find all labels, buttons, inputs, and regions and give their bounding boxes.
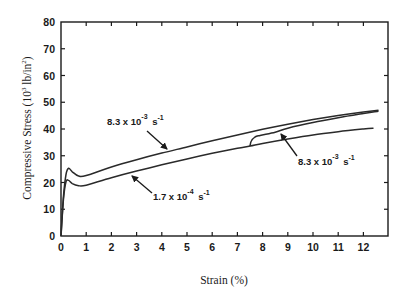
- annotation-jump-rate: 8.3 x 10-3 s-1: [298, 153, 355, 167]
- y-tick-label: 70: [43, 43, 55, 55]
- series-line-0: [61, 110, 379, 236]
- x-tick-label: 3: [134, 241, 140, 253]
- x-tick-label: 7: [234, 241, 240, 253]
- y-axis-ticks: [61, 49, 388, 210]
- x-axis-label: Strain (%): [200, 274, 248, 287]
- x-axis-ticks: [86, 22, 363, 236]
- x-tick-label: 10: [307, 241, 319, 253]
- y-tick-label: 20: [43, 177, 55, 189]
- y-axis-tick-labels: 01020304050607080: [43, 16, 55, 242]
- x-tick-label: 11: [333, 241, 344, 253]
- annotation-arrow-upper: [147, 131, 167, 149]
- x-tick-label: 4: [159, 241, 165, 253]
- x-tick-label: 1: [83, 241, 89, 253]
- annotation-upper-rate: 8.3 x 10-3 s-1: [107, 113, 164, 127]
- y-tick-label: 0: [49, 230, 55, 242]
- plot-frame: [61, 22, 388, 236]
- series-line-1: [61, 128, 374, 236]
- y-axis-label: Compressive Stress (103 lb/in2): [20, 56, 34, 200]
- annotation-arrow-lower: [132, 176, 152, 193]
- x-tick-label: 2: [108, 241, 114, 253]
- x-tick-label: 0: [58, 241, 64, 253]
- x-tick-label: 12: [358, 241, 370, 253]
- x-tick-label: 9: [285, 241, 291, 253]
- stress-strain-chart: 0123456789101112 01020304050607080 8.3 x…: [0, 0, 409, 300]
- y-tick-label: 80: [43, 16, 55, 28]
- x-tick-label: 8: [260, 241, 266, 253]
- y-tick-label: 40: [43, 123, 55, 135]
- x-axis-tick-labels: 0123456789101112: [58, 241, 369, 253]
- x-tick-label: 5: [184, 241, 190, 253]
- y-tick-label: 50: [43, 96, 55, 108]
- y-tick-label: 10: [43, 203, 55, 215]
- x-tick-label: 6: [209, 241, 215, 253]
- data-series: [61, 110, 379, 236]
- y-tick-label: 60: [43, 70, 55, 82]
- y-tick-label: 30: [43, 150, 55, 162]
- annotation-lower-rate: 1.7 x 10-4 s-1: [153, 188, 210, 202]
